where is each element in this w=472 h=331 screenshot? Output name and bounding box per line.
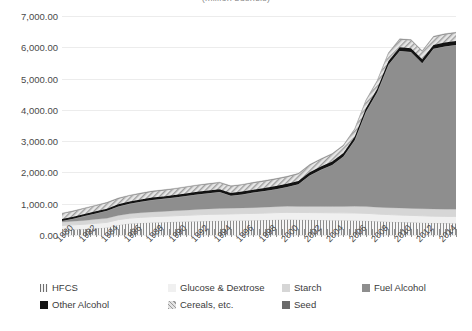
legend-swatch-fuel-alcohol-icon (362, 284, 370, 292)
legend-item-label: Fuel Alcohol (374, 283, 426, 293)
x-axis-labels: 1980198219841986198819901992199419961998… (0, 237, 472, 277)
legend-swatch-seed-icon (282, 301, 290, 309)
legend-swatch-hfcs-icon (40, 284, 48, 292)
legend-item[interactable]: Cereals, etc. (168, 300, 233, 310)
stacked-area-chart (62, 16, 456, 235)
y-axis-tick-label: 5,000.00 (21, 73, 58, 84)
legend-item-label: HFCS (52, 283, 78, 293)
y-axis: 0.001,000.002,000.003,000.004,000.005,00… (0, 16, 58, 235)
legend-item[interactable]: Seed (282, 300, 316, 310)
y-axis-tick-label: 1,000.00 (21, 198, 58, 209)
legend-item-label: Glucose & Dextrose (180, 283, 264, 293)
legend-swatch-cereals-icon (168, 301, 176, 309)
chart-title: (million bushels) (0, 0, 472, 3)
legend-item-label: Cereals, etc. (180, 300, 233, 310)
legend-item-label: Other Alcohol (52, 300, 109, 310)
y-axis-tick-label: 7,000.00 (21, 11, 58, 22)
legend-item-label: Starch (294, 283, 321, 293)
y-axis-tick-label: 6,000.00 (21, 42, 58, 53)
legend-item[interactable]: Glucose & Dextrose (168, 283, 264, 293)
legend-item[interactable]: Other Alcohol (40, 300, 109, 310)
legend-swatch-other-alcohol-icon (40, 301, 48, 309)
y-axis-tick-label: 4,000.00 (21, 104, 58, 115)
legend-item[interactable]: Fuel Alcohol (362, 283, 426, 293)
legend-item-label: Seed (294, 300, 316, 310)
y-axis-tick-label: 3,000.00 (21, 136, 58, 147)
legend-swatch-starch-icon (282, 284, 290, 292)
legend-item[interactable]: HFCS (40, 283, 78, 293)
area-series-fuel-alcohol (62, 45, 456, 222)
y-axis-tick-label: 2,000.00 (21, 167, 58, 178)
plot-area (62, 16, 456, 235)
legend-swatch-glucose-dextrose-icon (168, 284, 176, 292)
chart-legend: HFCSGlucose & DextroseStarchFuel Alcohol… (0, 283, 472, 325)
legend-item[interactable]: Starch (282, 283, 321, 293)
